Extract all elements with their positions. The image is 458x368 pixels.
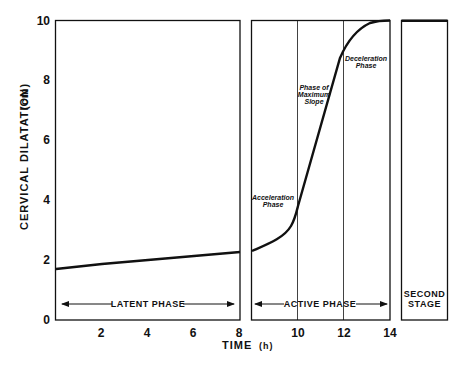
y-axis-label: CERVICAL DILATATION (cm) <box>18 83 30 230</box>
svg-text:Maximum: Maximum <box>298 91 330 98</box>
svg-text:TIME: TIME <box>222 339 252 351</box>
labor-curve-chart: CERVICAL DILATATION (cm) 0 2 4 6 8 10 LA… <box>0 0 458 368</box>
max-slope-annotation: Phase of Maximum Slope <box>298 84 330 106</box>
svg-text:(h): (h) <box>259 341 274 351</box>
svg-text:12: 12 <box>337 326 351 340</box>
svg-text:2: 2 <box>98 326 105 340</box>
latent-phase-label: LATENT PHASE <box>111 299 185 309</box>
svg-text:SECOND: SECOND <box>404 289 446 299</box>
svg-text:0: 0 <box>43 313 50 327</box>
svg-text:Phase: Phase <box>356 62 377 69</box>
svg-text:4: 4 <box>43 193 50 207</box>
svg-text:2: 2 <box>43 253 50 267</box>
svg-text:8: 8 <box>236 326 243 340</box>
svg-text:8: 8 <box>43 73 50 87</box>
latent-phase-panel: LATENT PHASE <box>56 21 241 321</box>
latent-curve <box>56 252 240 269</box>
svg-text:14: 14 <box>383 326 397 340</box>
y-axis-ticks: 0 2 4 6 8 10 <box>37 14 51 327</box>
svg-text:10: 10 <box>291 326 305 340</box>
svg-text:Slope: Slope <box>304 98 323 106</box>
active-phase-label: ACTIVE PHASE <box>284 299 357 309</box>
svg-text:Phase: Phase <box>263 201 284 208</box>
x-axis-label: TIME (h) <box>222 339 274 351</box>
svg-text:Acceleration: Acceleration <box>251 194 294 201</box>
svg-text:Deceleration: Deceleration <box>345 55 387 62</box>
deceleration-annotation: Deceleration Phase <box>345 55 387 69</box>
second-stage-panel: SECOND STAGE <box>402 21 448 321</box>
svg-text:6: 6 <box>43 133 50 147</box>
svg-text:4: 4 <box>144 326 151 340</box>
acceleration-annotation: Acceleration Phase <box>251 194 294 208</box>
svg-text:6: 6 <box>190 326 197 340</box>
svg-text:STAGE: STAGE <box>408 299 441 309</box>
svg-text:(cm): (cm) <box>18 83 30 110</box>
active-phase-panel: ACTIVE PHASE Acceleration Phase Phase of… <box>251 21 390 321</box>
svg-text:10: 10 <box>37 14 51 28</box>
x-axis-ticks: 2 4 6 8 10 12 14 <box>98 326 397 340</box>
svg-text:Phase of: Phase of <box>299 84 329 91</box>
